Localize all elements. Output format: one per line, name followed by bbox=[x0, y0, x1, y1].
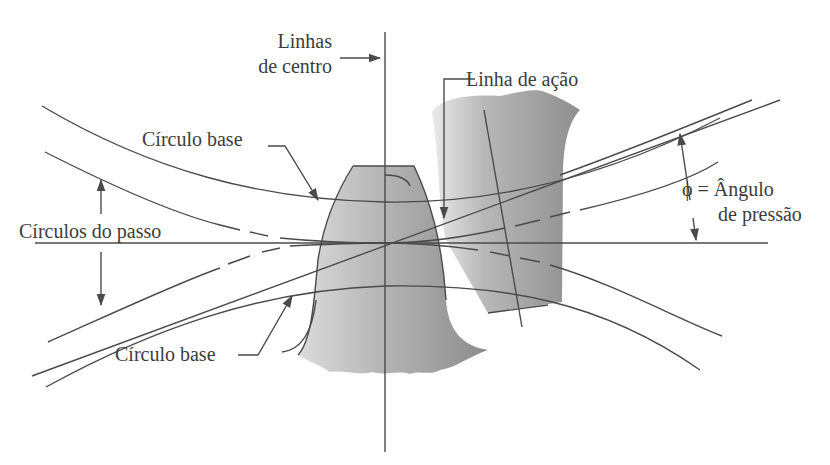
upper-pitch-circle bbox=[45, 152, 220, 225]
label-center-lines: Linhas de centro bbox=[250, 30, 332, 77]
label-center-lines-1: Linhas bbox=[250, 30, 332, 52]
lower-pitch-circle bbox=[48, 268, 220, 342]
label-pressure-angle: ϕ = Ângulo de pressão bbox=[682, 178, 802, 225]
label-center-lines-2: de centro bbox=[250, 55, 332, 77]
label-line-of-action: Linha de ação bbox=[466, 68, 578, 90]
label-pressure-angle-1: ϕ = Ângulo bbox=[682, 178, 802, 200]
label-base-circle-bottom: Círculo base bbox=[115, 343, 216, 365]
gear-diagram: Linhas de centro Linha de ação Círculo b… bbox=[0, 0, 830, 465]
label-pitch-circles: Círculos do passo bbox=[19, 220, 161, 242]
label-base-circle-top: Círculo base bbox=[142, 128, 243, 150]
label-pressure-angle-2: de pressão bbox=[718, 203, 802, 225]
